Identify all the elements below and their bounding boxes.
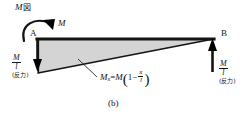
- left-reaction-numerator: M: [12, 54, 21, 62]
- applied-moment-arrowhead-icon: [43, 19, 55, 30]
- node-label-b: B: [221, 29, 227, 38]
- left-reaction-label: M l (反力): [12, 54, 29, 78]
- right-reaction-fraction: M l: [219, 60, 228, 78]
- applied-moment-label: M: [58, 19, 66, 28]
- left-reaction-fraction: M l: [12, 54, 21, 72]
- equation-lhs-symbol: M: [100, 72, 108, 82]
- right-reaction-numerator: M: [219, 60, 228, 68]
- figure-caption: (b): [108, 99, 119, 108]
- right-reaction-denominator: l: [219, 68, 228, 77]
- left-reaction-note: (反力): [12, 72, 29, 78]
- figure-title-symbol: M: [15, 2, 23, 12]
- figure-title: M図: [15, 3, 31, 12]
- equation-fraction: xl: [138, 69, 143, 85]
- figure-canvas: [0, 0, 244, 120]
- equation-rhs-symbol: M: [115, 72, 123, 82]
- equation-minus: −: [132, 72, 137, 82]
- right-reaction-note: (反力): [219, 78, 236, 84]
- left-reaction-denominator: l: [12, 62, 21, 71]
- bending-moment-figure: M図 M A B M l (反力) M l (反力) Mx=M(1−xl) (b…: [0, 0, 244, 120]
- figure-title-cjk: 図: [23, 3, 31, 12]
- equation-close-paren: ): [144, 71, 149, 87]
- equation-fraction-denominator: l: [138, 77, 143, 84]
- right-reaction-label: M l (反力): [219, 60, 236, 84]
- node-label-a: A: [30, 29, 37, 38]
- moment-equation: Mx=M(1−xl): [100, 69, 149, 85]
